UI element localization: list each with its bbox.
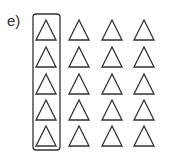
triangle-icon <box>69 47 89 67</box>
triangle-icon <box>134 100 154 120</box>
triangle-icon <box>102 20 122 40</box>
triangle-icon <box>36 20 56 40</box>
triangle-icon <box>36 126 56 146</box>
triangle-icon <box>36 47 56 67</box>
triangle-icon <box>134 20 154 40</box>
triangle-icon <box>102 47 122 67</box>
triangle-grid <box>0 0 169 166</box>
triangle-icon <box>69 126 89 146</box>
triangle-icon <box>69 100 89 120</box>
triangle-icon <box>102 74 122 94</box>
triangle-icon <box>102 100 122 120</box>
triangle-icon <box>134 126 154 146</box>
triangle-icon <box>102 126 122 146</box>
triangle-icon <box>69 20 89 40</box>
highlight-box <box>33 14 60 150</box>
triangle-icon <box>36 100 56 120</box>
triangle-icon <box>69 74 89 94</box>
triangle-icon <box>36 74 56 94</box>
triangle-icon <box>134 47 154 67</box>
triangle-icon <box>134 74 154 94</box>
